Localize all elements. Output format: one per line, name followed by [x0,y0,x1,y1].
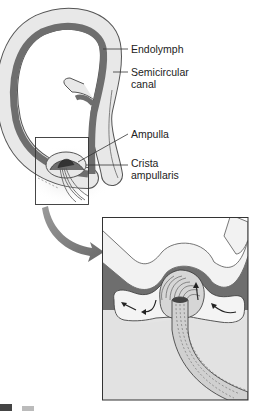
cropped-caption-fragment [0,404,12,411]
label-endolymph: Endolymph [131,43,184,55]
label-crista-ampullaris: Crista ampullaris [131,157,179,181]
ampulla-inset [102,217,248,400]
magnify-arrow-icon [42,206,104,262]
label-ampulla: Ampulla [131,128,169,140]
canal-overview [7,19,118,205]
cropped-caption-fragment [22,406,34,411]
semicircular-canal-diagram [0,0,254,411]
label-semicircular-canal: Semicircular canal [131,66,189,90]
